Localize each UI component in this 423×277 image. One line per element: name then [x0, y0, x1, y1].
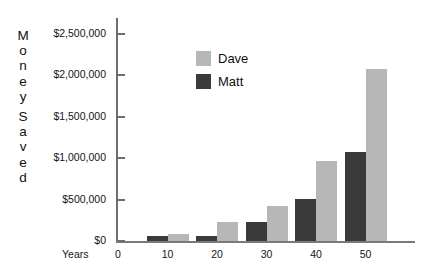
bar-group	[147, 18, 189, 241]
y-axis-tick-mark	[118, 74, 125, 76]
legend-swatch	[196, 74, 211, 89]
x-axis-tick-labels: 01020304050	[118, 248, 415, 266]
y-axis-tick-label: $0	[0, 234, 106, 246]
bar-group	[345, 18, 387, 241]
bar-dave	[217, 222, 238, 241]
y-axis-tick-label: $2,500,000	[0, 27, 106, 39]
legend-item: Matt	[196, 71, 291, 91]
bar-matt	[147, 236, 168, 241]
y-axis-tick-label: $1,500,000	[0, 110, 106, 122]
y-axis-tick-mark	[118, 240, 125, 242]
y-axis-tick-mark	[118, 157, 125, 159]
bar-matt	[196, 236, 217, 241]
x-axis-line	[116, 241, 415, 243]
bar-group	[97, 18, 139, 241]
bar-dave	[267, 206, 288, 241]
chart-legend: DaveMatt	[196, 48, 291, 94]
bar-chart: MoneySaved $0$500,000$1,000,000$1,500,00…	[0, 0, 423, 277]
bar-matt	[246, 222, 267, 241]
bar-matt	[345, 152, 366, 241]
y-axis-tick-mark	[118, 116, 125, 118]
y-axis-tick-label: $500,000	[0, 193, 106, 205]
legend-label: Dave	[218, 51, 248, 66]
y-axis-tick-labels: $0$500,000$1,000,000$1,500,000$2,000,000…	[0, 0, 106, 277]
bar-dave	[168, 234, 189, 241]
y-axis-tick-mark	[118, 199, 125, 201]
y-axis-tick-label: $2,000,000	[0, 68, 106, 80]
bar-group	[295, 18, 337, 241]
bar-matt	[295, 199, 316, 241]
legend-label: Matt	[218, 74, 243, 89]
x-axis-tick-label: 20	[197, 248, 237, 260]
x-axis-tick-label: 50	[346, 248, 386, 260]
x-axis-tick-label: 0	[98, 248, 138, 260]
y-axis-tick-label: $1,000,000	[0, 151, 106, 163]
x-axis-tick-label: 30	[247, 248, 287, 260]
legend-swatch	[196, 51, 211, 66]
bar-dave	[366, 69, 387, 241]
legend-item: Dave	[196, 48, 291, 68]
x-axis-tick-label: 40	[296, 248, 336, 260]
x-axis-title: Years	[62, 248, 88, 260]
y-axis-tick-mark	[118, 33, 125, 35]
bar-dave	[316, 161, 337, 241]
x-axis-tick-label: 10	[148, 248, 188, 260]
